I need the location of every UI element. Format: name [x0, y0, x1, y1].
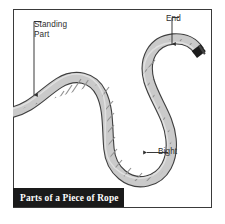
label-end: End — [166, 14, 181, 24]
rope-diagram-figure: Standing Part End Bight Parts of a Piece… — [0, 0, 225, 224]
figure-caption-text: Parts of a Piece of Rope — [20, 193, 119, 203]
label-bight: Bight — [158, 147, 177, 157]
label-standing-part: Standing Part — [34, 20, 67, 39]
rope-path-group — [13, 26, 204, 188]
figure-caption-bar: Parts of a Piece of Rope — [13, 188, 124, 207]
